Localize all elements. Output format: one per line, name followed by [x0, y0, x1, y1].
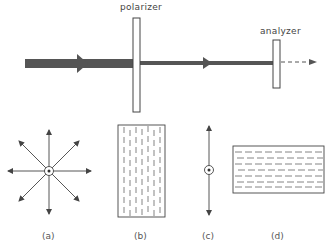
beam-arrow-icon [203, 57, 212, 69]
beam-arrow-icon [77, 54, 88, 73]
polarizer-label: polarizer [120, 2, 162, 12]
caption-d: (d) [271, 231, 284, 241]
output-beam [281, 59, 317, 65]
polarization-diagram [0, 0, 332, 250]
caption-c: (c) [202, 231, 214, 241]
panel-c-polarized [205, 126, 214, 215]
polarized-beam [140, 57, 273, 69]
caption-b: (b) [134, 231, 147, 241]
analyzer-label: analyzer [260, 26, 301, 36]
arrow-icon [309, 59, 317, 65]
polarizer-plate [133, 18, 140, 112]
analyzer-plate [273, 40, 280, 88]
incident-beam [25, 54, 133, 73]
panel-a-unpolarized [8, 130, 91, 214]
panel-b-vertical-polarizer [118, 125, 165, 217]
panel-d-horizontal-analyzer [233, 146, 324, 193]
caption-a: (a) [42, 231, 55, 241]
